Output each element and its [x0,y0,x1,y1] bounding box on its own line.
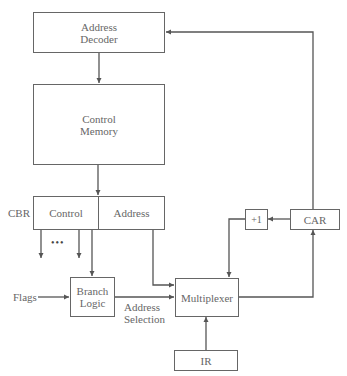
address-decoder-line1: Address [81,21,117,33]
branch-logic-block: Branch Logic [70,277,115,317]
ellipsis-label: ••• [51,237,65,249]
address-selection-label-2: Selection [124,313,165,325]
address-selection-label-1: Address [124,301,160,313]
incrementer-label: +1 [251,214,262,226]
address-decoder-line2: Decoder [80,33,117,45]
incrementer-block: +1 [245,209,268,230]
car-label: CAR [304,214,327,226]
branch-logic-line1: Branch [77,285,109,297]
car-block: CAR [290,209,340,230]
flags-label: Flags [13,291,37,303]
multiplexer-block: Multiplexer [175,278,239,317]
ir-block: IR [174,350,238,371]
cbr-label: CBR [8,207,30,219]
ir-label: IR [201,355,212,367]
control-memory-block: Control Memory [33,84,165,165]
branch-logic-line2: Logic [80,297,106,309]
connection-lines [0,0,347,376]
control-memory-line1: Control [82,113,116,125]
cbr-control-label: Control [49,207,83,219]
cbr-address-label: Address [113,207,149,219]
address-decoder-block: Address Decoder [33,12,165,53]
cbr-control-field: Control [33,196,99,230]
multiplexer-label: Multiplexer [181,292,233,304]
cbr-address-field: Address [98,196,165,230]
control-memory-line2: Memory [80,125,118,137]
